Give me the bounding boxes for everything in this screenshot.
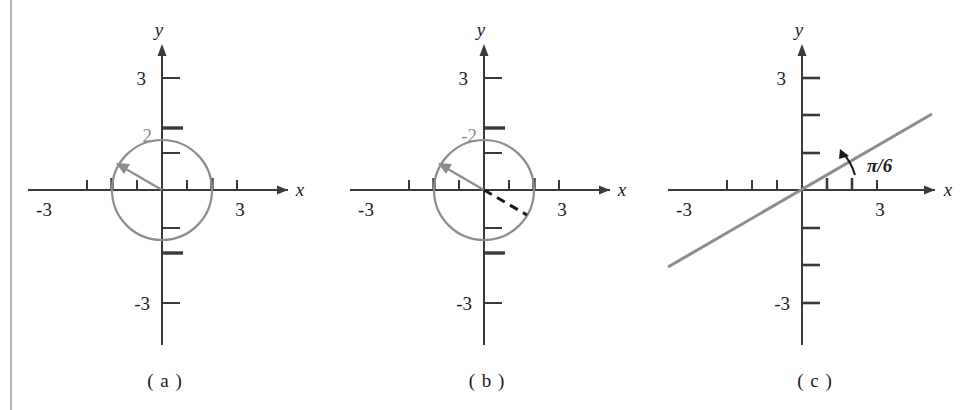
panel-caption-b: ( b )	[322, 370, 652, 392]
x-axis-label-c: x	[943, 179, 953, 200]
y-tick-label-3-c: 3	[777, 68, 787, 89]
y-axis-label-b: y	[475, 19, 486, 40]
x-tick-label-3-b: 3	[557, 199, 567, 220]
x-axis-label-b: x	[617, 179, 627, 200]
panel-c-plot: -3 3 3 -3 x y π/6	[650, 0, 973, 370]
panel-b-plot: -3 3 3 -3 x y -2	[322, 0, 652, 370]
x-tick-label-neg3-c: -3	[676, 199, 692, 220]
panel-a-plot: -3 3 3 -3 x y 2	[0, 0, 330, 370]
y-tick-label-3-b: 3	[459, 68, 469, 89]
panel-a: -3 3 3 -3 x y 2 ( a )	[0, 0, 330, 410]
ray-b	[438, 163, 484, 190]
y-axis-b	[480, 44, 489, 345]
figure-root: -3 3 3 -3 x y 2 ( a )	[0, 0, 973, 410]
x-axis-label-a: x	[295, 179, 305, 200]
ray-length-label-a: 2	[143, 125, 153, 146]
dashed-ray-b	[484, 190, 527, 215]
panel-caption-c: ( c )	[650, 370, 973, 392]
panel-caption-a: ( a )	[0, 370, 330, 392]
x-tick-label-neg3-b: -3	[358, 199, 374, 220]
x-tick-label-3-c: 3	[875, 199, 885, 220]
y-tick-label-neg3-b: -3	[456, 293, 472, 314]
y-axis-a	[158, 44, 167, 345]
ray-a	[116, 163, 162, 190]
y-tick-label-neg3-a: -3	[134, 293, 150, 314]
y-axis-c	[798, 44, 807, 345]
panel-b: -3 3 3 -3 x y -2 ( b )	[322, 0, 652, 410]
y-tick-label-3-a: 3	[137, 68, 147, 89]
ray-length-label-b: -2	[461, 125, 477, 146]
x-tick-label-3-a: 3	[235, 199, 245, 220]
panel-c: -3 3 3 -3 x y π/6 ( c )	[650, 0, 973, 410]
x-tick-label-neg3-a: -3	[36, 199, 52, 220]
y-tick-label-neg3-c: -3	[774, 293, 790, 314]
y-axis-label-a: y	[153, 19, 164, 40]
angle-label-c: π/6	[867, 155, 893, 176]
y-axis-label-c: y	[793, 19, 804, 40]
